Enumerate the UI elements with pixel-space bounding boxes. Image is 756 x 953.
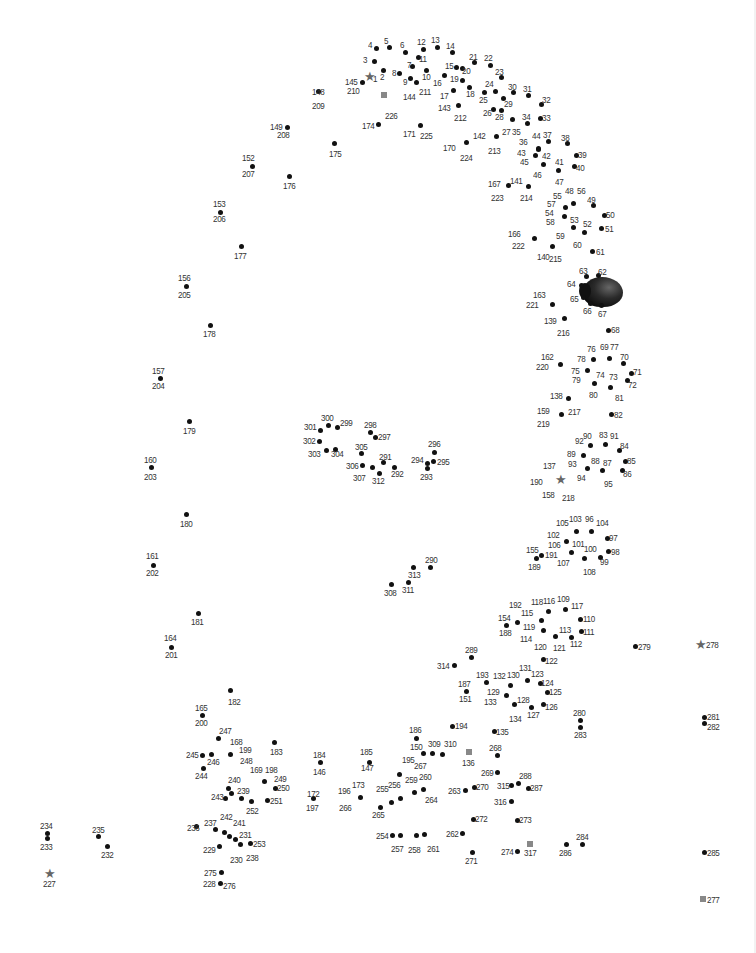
dot-number-label: 316 (494, 797, 506, 807)
puzzle-dot (358, 795, 363, 800)
dot-number-label: 237 (204, 818, 216, 828)
puzzle-dot (508, 683, 513, 688)
dot-number-label: 77 (610, 342, 618, 352)
dot-number-label: 263 (448, 786, 460, 796)
puzzle-dot (187, 419, 192, 424)
dot-number-label: 88 (591, 456, 599, 466)
dot-number-label: 71 (633, 367, 641, 377)
dot-number-label: 245 (186, 750, 198, 760)
dot-number-label: 34 (522, 112, 530, 122)
puzzle-dot (534, 556, 539, 561)
dot-number-label: 268 (489, 743, 501, 753)
puzzle-dot (360, 463, 365, 468)
dot-number-label: 212 (454, 113, 466, 123)
puzzle-dot (431, 459, 436, 464)
dot-number-label: 205 (178, 290, 190, 300)
puzzle-dot (702, 850, 707, 855)
dot-number-label: 4 (368, 40, 372, 50)
puzzle-dot (184, 512, 189, 517)
puzzle-dot (372, 59, 377, 64)
dot-number-label: 267 (414, 761, 426, 771)
dot-number-label: 14 (446, 41, 454, 51)
dot-number-label: 230 (230, 855, 242, 865)
dot-number-label: 247 (219, 726, 231, 736)
puzzle-dot (272, 740, 277, 745)
dot-number-label: 277 (707, 895, 719, 905)
dot-number-label: 157 (152, 366, 164, 376)
dot-number-label: 315 (497, 781, 509, 791)
puzzle-dot (494, 134, 499, 139)
puzzle-dot (229, 791, 234, 796)
dot-number-label: 185 (360, 747, 372, 757)
dot-number-label: 80 (589, 390, 597, 400)
dot-number-label: 273 (519, 815, 531, 825)
end-square-icon (700, 896, 706, 902)
dot-number-label: 201 (165, 650, 177, 660)
dot-number-label: 79 (572, 375, 580, 385)
puzzle-dot (332, 141, 337, 146)
dot-number-label: 161 (146, 551, 158, 561)
puzzle-dot (550, 244, 555, 249)
puzzle-dot (533, 153, 538, 158)
dot-number-label: 271 (465, 856, 477, 866)
dot-number-label: 180 (180, 519, 192, 529)
dot-number-label: 285 (707, 848, 719, 858)
dot-number-label: 305 (355, 442, 367, 452)
dot-number-label: 142 (473, 131, 485, 141)
dot-number-label: 130 (507, 670, 519, 680)
dot-number-label: 6 (400, 40, 404, 50)
dot-number-label: 192 (509, 600, 521, 610)
puzzle-dot (515, 620, 520, 625)
dot-number-label: 146 (313, 767, 325, 777)
dot-number-label: 257 (391, 844, 403, 854)
dot-number-label: 78 (577, 354, 585, 364)
dot-number-label: 74 (596, 370, 604, 380)
puzzle-dot (412, 790, 417, 795)
dot-number-label: 9 (403, 77, 407, 87)
dot-number-label: 262 (446, 829, 458, 839)
puzzle-dot (452, 663, 457, 668)
dot-number-label: 197 (306, 803, 318, 813)
dot-number-label: 200 (195, 718, 207, 728)
puzzle-dot (45, 831, 50, 836)
dot-number-label: 311 (402, 585, 414, 595)
dot-number-label: 108 (583, 567, 595, 577)
dot-number-label: 50 (606, 210, 614, 220)
puzzle-dot (606, 549, 611, 554)
dot-number-label: 73 (609, 372, 617, 382)
puzzle-dot (318, 760, 323, 765)
puzzle-dot (324, 448, 329, 453)
dot-number-label: 307 (353, 473, 365, 483)
dot-number-label: 295 (437, 457, 449, 467)
dot-number-label: 317 (524, 848, 536, 858)
dot-number-label: 174 (362, 121, 374, 131)
dot-number-label: 127 (527, 710, 539, 720)
dot-number-label: 195 (402, 755, 414, 765)
puzzle-dot (526, 184, 531, 189)
puzzle-dot (574, 529, 579, 534)
puzzle-dot (580, 842, 585, 847)
dot-to-dot-puzzle: 4536121314★11452102871191014421115201619… (0, 0, 756, 953)
dot-number-label: 125 (549, 687, 561, 697)
dot-number-label: 235 (92, 825, 104, 835)
dot-number-label: 287 (530, 783, 542, 793)
dot-number-label: 254 (376, 831, 388, 841)
dot-number-label: 132 (493, 671, 505, 681)
dot-number-label: 119 (523, 622, 535, 632)
dot-number-label: 210 (347, 86, 359, 96)
puzzle-dot (227, 834, 232, 839)
dot-number-label: 59 (556, 231, 564, 241)
puzzle-dot (460, 831, 465, 836)
puzzle-dot (581, 295, 586, 300)
dot-number-label: 209 (312, 101, 324, 111)
dot-number-label: 193 (476, 670, 488, 680)
dot-number-label: 23 (495, 67, 503, 77)
dot-number-label: 186 (409, 725, 421, 735)
dot-number-label: 278 (706, 640, 718, 650)
dot-number-label: 261 (427, 844, 439, 854)
dot-number-label: 313 (408, 570, 420, 580)
puzzle-dot (216, 736, 221, 741)
dot-number-label: 312 (372, 476, 384, 486)
puzzle-dot (510, 117, 515, 122)
dot-number-label: 136 (462, 758, 474, 768)
